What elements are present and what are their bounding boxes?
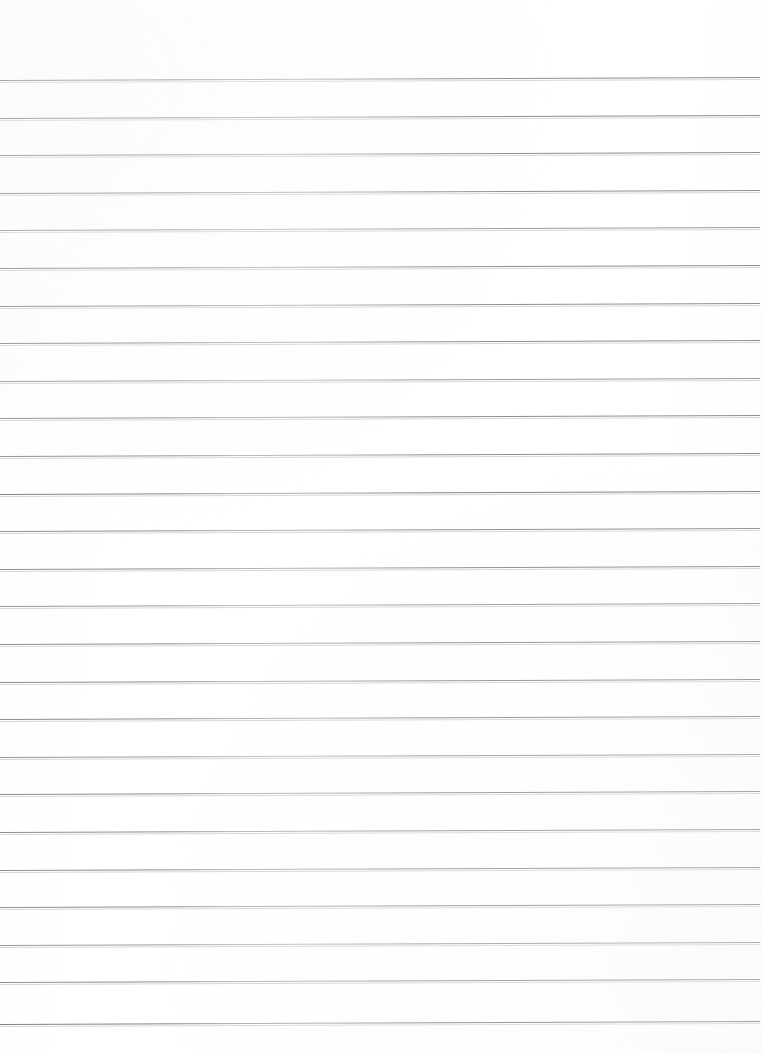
rule-line: [0, 528, 760, 532]
rule-line: [0, 340, 760, 344]
scanned-page: [0, 0, 763, 1054]
rule-line: [0, 716, 760, 720]
rule-line: [0, 754, 760, 758]
rule-line: [0, 491, 760, 495]
rule-line: [0, 679, 760, 683]
rule-line: [0, 1021, 760, 1025]
rule-line: [0, 378, 760, 382]
rule-line: [0, 791, 760, 795]
rule-line: [0, 603, 760, 607]
rule-line: [0, 904, 760, 908]
rule-line: [0, 453, 760, 457]
rule-line: [0, 77, 760, 81]
rule-line: [0, 942, 760, 946]
rule-line: [0, 303, 760, 307]
ruling-lines-layer: [0, 0, 763, 1054]
rule-line: [0, 979, 760, 983]
rule-line: [0, 227, 760, 231]
rule-line: [0, 152, 760, 156]
rule-line: [0, 415, 760, 419]
rule-line: [0, 867, 760, 871]
rule-line: [0, 566, 760, 570]
rule-line: [0, 190, 760, 194]
rule-line: [0, 115, 760, 119]
rule-line: [0, 829, 760, 833]
rule-line: [0, 641, 760, 645]
rule-line: [0, 265, 760, 269]
